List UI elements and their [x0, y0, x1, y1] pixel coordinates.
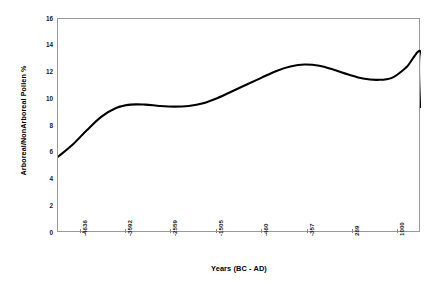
y-tick-label: 12 [31, 68, 53, 75]
y-tick-label: 14 [31, 41, 53, 48]
y-axis-tick-group: 1614121086420 [29, 0, 53, 285]
plot-canvas [58, 19, 421, 233]
y-tick-label: 2 [31, 202, 53, 209]
y-tick-label: 16 [31, 15, 53, 22]
plot-area [57, 18, 420, 232]
x-tick-label: -4636 [82, 220, 88, 236]
y-tick-label: 8 [31, 122, 53, 129]
x-tick-label: -357 [309, 224, 315, 236]
x-tick-label: 269 [354, 226, 360, 236]
y-tick-label: 6 [31, 148, 53, 155]
x-axis-title: Years (BC - AD) [57, 264, 421, 273]
x-tick-label: 1000 [400, 222, 406, 236]
pollen-line-chart: Arboreal/NonArboreal Pollen % 1614121086… [0, 0, 445, 285]
x-tick-label: -2559 [173, 220, 179, 236]
y-tick-label: 0 [31, 229, 53, 236]
x-tick-label: -460 [264, 224, 270, 236]
data-series-line [58, 51, 421, 157]
x-tick-label: -1505 [218, 220, 224, 236]
y-tick-label: 10 [31, 95, 53, 102]
y-tick-label: 4 [31, 175, 53, 182]
x-tick-label: -3592 [127, 220, 133, 236]
